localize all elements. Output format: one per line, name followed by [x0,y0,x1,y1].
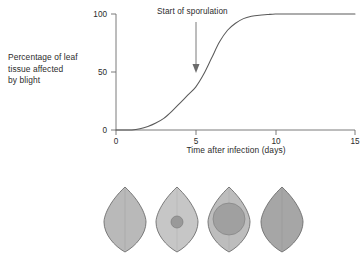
y-tick-label-50: 50 [98,68,108,77]
blight-progression-chart: 100 50 0 0 5 10 15 [0,0,364,160]
y-tick-label-0: 0 [102,126,107,135]
leaf-stage-3 [208,187,250,252]
sporulation-annotation-label: Start of sporulation [157,7,228,16]
leaf-stage-2 [156,187,198,252]
x-axis-title: Time after infection (days) [116,145,356,155]
sporulation-arrow [193,22,200,73]
leaf-lesion-3 [213,203,245,235]
leaf-progression-diagrams [0,182,364,257]
blight-curve [116,14,355,130]
leaf-stage-4 [261,187,303,252]
leaf-stage-1 [104,187,146,252]
y-tick-label-100: 100 [93,10,107,19]
figure-root: Percentage of leaf tissue affected by bl… [0,0,364,257]
leaf-lesion-2 [171,216,183,228]
